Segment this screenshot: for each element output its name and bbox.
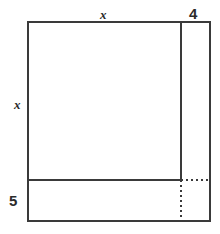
label-bottom-strip-height-5: 5 xyxy=(9,193,17,208)
figure-canvas xyxy=(0,0,220,234)
label-right-strip-width-4: 4 xyxy=(189,6,197,21)
label-left-height-x: x xyxy=(14,98,21,111)
geometry-diagram: x x 4 5 xyxy=(0,0,220,234)
label-top-width-x: x xyxy=(100,8,107,21)
